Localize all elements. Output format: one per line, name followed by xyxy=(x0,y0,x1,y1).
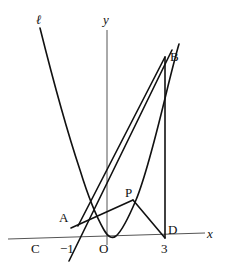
point-label-c: C xyxy=(31,242,40,255)
segment-p-to-d xyxy=(133,200,165,238)
origin-label-o: O xyxy=(99,242,108,255)
line-c-to-b xyxy=(69,50,172,261)
point-label-p: P xyxy=(125,186,132,199)
curve-label-ell: ℓ xyxy=(36,13,41,26)
point-label-b: B xyxy=(170,50,179,63)
diagram-canvas xyxy=(0,0,226,276)
tick-label-minus-one: −1 xyxy=(60,242,74,255)
line-a-to-b xyxy=(78,57,165,226)
point-label-d: D xyxy=(168,223,177,236)
y-axis-label: y xyxy=(103,13,109,26)
tick-label-three: 3 xyxy=(161,242,168,255)
x-axis-label: x xyxy=(207,227,213,240)
point-label-a: A xyxy=(59,211,68,224)
segment-a-to-p xyxy=(71,200,133,228)
geometry-figure: ℓ y x A B C D P O −1 3 xyxy=(0,0,226,276)
parabola-curve xyxy=(40,28,179,237)
